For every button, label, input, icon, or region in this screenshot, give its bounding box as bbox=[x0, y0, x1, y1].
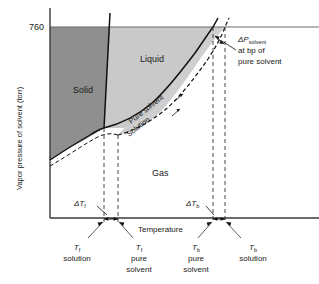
x-axis-title: Temperature bbox=[138, 225, 183, 234]
delta-p-line3: pure solvent bbox=[238, 57, 282, 66]
y-tick-label-760: 760 bbox=[29, 22, 44, 32]
region-label-liquid: Liquid bbox=[140, 54, 164, 64]
delta-p-line2: at bp of bbox=[238, 46, 265, 55]
delta-p-subscript: solvent bbox=[249, 39, 267, 45]
delta-p-symbol: ΔP bbox=[237, 35, 249, 44]
tb-solution-line2: solution bbox=[239, 254, 267, 263]
tb-solution-subscript: b bbox=[254, 247, 257, 253]
region-label-solid: Solid bbox=[73, 85, 93, 95]
above-760-white bbox=[50, 0, 319, 27]
tb-pure-line2: pure bbox=[188, 254, 205, 263]
tf-pure-line3: solvent bbox=[126, 265, 152, 274]
y-axis-title-group: Vapor pressure of solvent (torr) bbox=[15, 86, 24, 190]
tf-pure-line2: pure bbox=[131, 254, 148, 263]
region-label-gas: Gas bbox=[152, 168, 169, 178]
tb-pure-line3: solvent bbox=[183, 265, 209, 274]
phase-diagram-figure: Solid Liquid Gas Pure solvent Solution Δ… bbox=[0, 0, 319, 284]
phase-diagram-svg: Solid Liquid Gas Pure solvent Solution Δ… bbox=[0, 0, 319, 284]
delta-tb-subscript: b bbox=[196, 203, 199, 209]
y-axis-title: Vapor pressure of solvent (torr) bbox=[15, 86, 24, 190]
tf-solution-line2: solution bbox=[63, 254, 91, 263]
tb-pure-subscript: b bbox=[197, 247, 200, 253]
